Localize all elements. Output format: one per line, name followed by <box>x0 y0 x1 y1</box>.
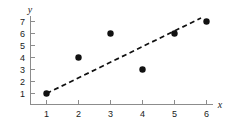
y-tick-label-5: 5 <box>20 41 25 51</box>
scatter-plot-figure: 7 6 5 4 3 2 1 1 2 3 4 5 6 y x <box>0 0 229 123</box>
y-tick-label-3: 3 <box>20 65 25 75</box>
x-tick-label-6: 6 <box>204 109 209 119</box>
y-axis-ticks <box>31 22 36 94</box>
y-tick-label-1: 1 <box>20 89 25 99</box>
data-point <box>203 18 209 24</box>
x-tick-label-3: 3 <box>108 109 113 119</box>
x-tick-label-4: 4 <box>140 109 145 119</box>
x-tick-label-1: 1 <box>44 109 49 119</box>
trend-line <box>47 18 202 94</box>
y-tick-label-7: 7 <box>20 17 25 27</box>
y-tick-label-4: 4 <box>20 53 25 63</box>
plot-area: 7 6 5 4 3 2 1 1 2 3 4 5 6 y x <box>0 0 229 123</box>
data-point <box>171 30 177 36</box>
data-point <box>75 54 81 60</box>
y-axis-label: y <box>27 4 33 15</box>
data-point <box>139 66 145 72</box>
data-point <box>107 30 113 36</box>
data-points-group <box>43 18 209 96</box>
data-point <box>43 90 49 96</box>
x-tick-label-5: 5 <box>172 109 177 119</box>
y-tick-label-6: 6 <box>20 29 25 39</box>
x-axis-ticks <box>47 100 207 105</box>
x-axis-label: x <box>217 99 223 110</box>
x-tick-label-2: 2 <box>76 109 81 119</box>
y-tick-label-2: 2 <box>20 77 25 87</box>
